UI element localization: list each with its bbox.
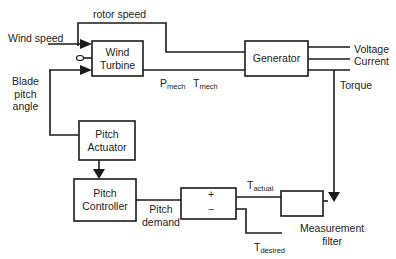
wind-turbine-label: Wind Turbine [92,41,143,76]
pitch-demand-line2: demand [142,216,180,229]
blade-pitch-label: Blade pitch angle [12,75,39,113]
voltage-label: Voltage [354,43,389,55]
blade-pitch-line3: angle [12,100,39,113]
t-desired-sub: desired [260,246,285,255]
wind-speed-label: Wind speed [8,32,63,44]
wind-turbine-line2: Turbine [100,59,135,72]
p-mech-label: Pmech [160,77,185,93]
pitch-controller-label: Pitch Controller [74,179,136,221]
t-actual-sub: actual [253,184,273,193]
summing-minus: − [208,203,214,215]
torque-label: Torque [340,79,372,91]
pitch-actuator-line2: Actuator [87,141,126,154]
arrow-torque-down [328,192,340,202]
feedback-node-icon [77,56,84,61]
measurement-filter-box [281,191,323,216]
t-desired-label: Tdesired [254,241,285,257]
arrow-actuator-down [93,169,105,179]
rotor-speed-label: rotor speed [93,8,146,20]
current-label: Current [354,55,389,67]
arrow-wind-speed [80,39,92,49]
measurement-filter-line2: filter [300,235,364,248]
p-mech-sub: mech [167,82,185,91]
generator-label: Generator [245,41,308,76]
pitch-controller-line2: Controller [82,200,128,213]
measurement-filter-label: Measurement filter [300,222,364,247]
p-mech-main: P [160,77,167,89]
pitch-actuator-label: Pitch Actuator [79,121,135,160]
t-mech-sub: mech [199,82,217,91]
arrow-blade-pitch [80,65,92,75]
t-actual-label: Tactual [247,179,273,195]
pitch-demand-line1: Pitch [142,203,180,216]
wind-turbine-line1: Wind [106,46,130,59]
summing-plus: + [208,188,214,200]
blade-pitch-line1: Blade [12,75,39,88]
pitch-demand-label: Pitch demand [142,203,180,228]
pitch-actuator-line1: Pitch [95,128,118,141]
generator-text: Generator [253,52,300,65]
t-mech-label: Tmech [193,77,218,93]
pitch-controller-line1: Pitch [93,187,116,200]
blade-pitch-line2: pitch [12,88,39,101]
measurement-filter-line1: Measurement [300,222,364,235]
